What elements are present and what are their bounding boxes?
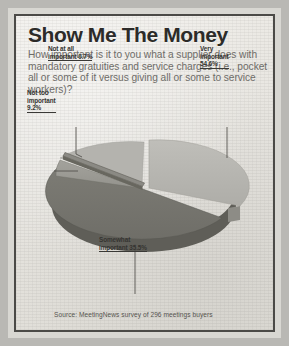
pie-chart-svg xyxy=(16,94,275,294)
source-note: Source: MeetingNews survey of 296 meetin… xyxy=(54,311,213,318)
pie-chart xyxy=(16,94,275,294)
label-very-important: Very important 54.6% xyxy=(200,38,229,76)
clipping-page: Show Me The Money How important is it to… xyxy=(8,8,281,338)
label-not-at-all-important: Not at all important 0.7% xyxy=(48,38,92,69)
label-somewhat-important: Somewhat important 35.5% xyxy=(99,229,147,260)
label-not-too-important: Not too important 9.2% xyxy=(27,82,56,120)
chart-panel: Show Me The Money How important is it to… xyxy=(14,14,275,332)
